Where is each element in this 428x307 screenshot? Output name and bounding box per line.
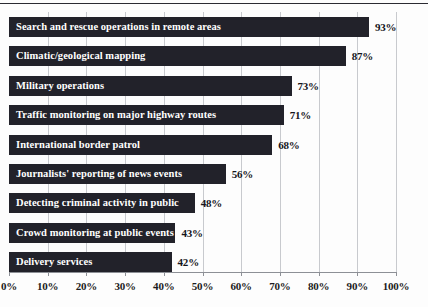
gridline-100% <box>396 12 397 272</box>
bar-row[interactable]: Search and rescue operations in remote a… <box>9 17 396 37</box>
bar-row[interactable]: Delivery services42% <box>9 252 396 272</box>
x-axis-tick-label: 10% <box>37 280 58 292</box>
x-axis-tick-mark <box>396 272 397 276</box>
plot-area: Search and rescue operations in remote a… <box>9 12 396 272</box>
x-axis-tick-label: 0% <box>1 280 17 292</box>
x-axis-tick-mark <box>241 272 242 276</box>
bar-category-label: International border patrol <box>16 135 140 155</box>
x-axis-tick-mark <box>164 272 165 276</box>
x-axis-tick-mark <box>280 272 281 276</box>
bar-value-label: 48% <box>201 193 222 213</box>
bar-category-label: Traffic monitoring on major highway rout… <box>16 105 216 125</box>
bar-category-label: Crowd monitoring at public events <box>16 223 174 243</box>
bar-category-label: Detecting criminal activity in public <box>16 193 179 213</box>
x-axis-tick-label: 70% <box>269 280 290 292</box>
bar-value-label: 56% <box>232 164 253 184</box>
x-axis-tick-label: 20% <box>76 280 97 292</box>
x-axis-tick-mark <box>319 272 320 276</box>
x-axis-tick-mark <box>48 272 49 276</box>
x-axis-tick-mark <box>203 272 204 276</box>
bar-row[interactable]: International border patrol68% <box>9 135 396 155</box>
x-axis-tick-label: 90% <box>347 280 368 292</box>
bar-row[interactable]: Climatic/geological mapping87% <box>9 46 396 66</box>
top-divider-rule <box>0 3 428 4</box>
bar-category-label: Climatic/geological mapping <box>16 46 145 66</box>
x-axis-tick-mark <box>357 272 358 276</box>
bar-row[interactable]: Journalists' reporting of news events56% <box>9 164 396 184</box>
bar-category-label: Delivery services <box>16 252 92 272</box>
horizontal-bar-chart: Search and rescue operations in remote a… <box>0 0 428 307</box>
x-axis-tick-label: 50% <box>192 280 213 292</box>
x-axis-tick-label: 40% <box>153 280 174 292</box>
bar-row[interactable]: Military operations73% <box>9 76 396 96</box>
bar-row[interactable]: Traffic monitoring on major highway rout… <box>9 105 396 125</box>
bar-value-label: 68% <box>278 135 299 155</box>
bar-category-label: Military operations <box>16 76 104 96</box>
bar-row[interactable]: Crowd monitoring at public events43% <box>9 223 396 243</box>
bar-value-label: 42% <box>178 252 199 272</box>
bar-value-label: 93% <box>375 17 396 37</box>
x-axis-tick-label: 80% <box>308 280 329 292</box>
bar-value-label: 87% <box>352 46 373 66</box>
bar-category-label: Journalists' reporting of news events <box>16 164 182 184</box>
bar-value-label: 73% <box>298 76 319 96</box>
x-axis-tick-label: 30% <box>114 280 135 292</box>
x-axis-tick-label: 100% <box>383 280 410 292</box>
x-axis-tick-mark <box>125 272 126 276</box>
bar-category-label: Search and rescue operations in remote a… <box>16 17 221 37</box>
x-axis-tick-mark <box>9 272 10 276</box>
x-axis-tick-mark <box>86 272 87 276</box>
x-axis-tick-label: 60% <box>230 280 251 292</box>
bar-value-label: 71% <box>290 105 311 125</box>
bar-row[interactable]: Detecting criminal activity in public48% <box>9 193 396 213</box>
bar-value-label: 43% <box>181 223 202 243</box>
